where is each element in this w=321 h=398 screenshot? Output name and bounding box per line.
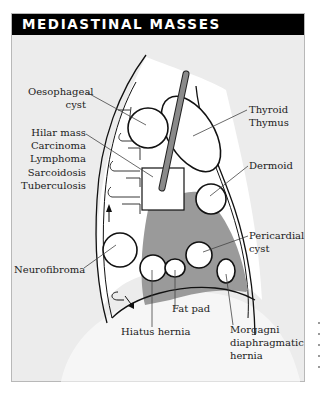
label-dermoid: Dermoid: [249, 159, 293, 172]
pericardial-cyst-mass: [186, 242, 212, 268]
label-oesophageal-cyst: Oesophageal cyst: [28, 85, 86, 111]
label-hilar-mass: Hilar mass Carcinoma Lymphoma Sarcoidosi…: [20, 126, 86, 192]
dermoid-mass: [196, 184, 226, 214]
label-hiatus-hernia: Hiatus hernia: [121, 325, 190, 338]
morgagni-hernia-mass: [217, 259, 235, 283]
oesophageal-cyst-mass: [128, 108, 168, 148]
label-fat-pad: Fat pad: [172, 302, 210, 315]
hiatus-hernia-mass: [140, 255, 166, 281]
label-morgagni-hernia: Morgagni diaphragmatic hernia: [230, 323, 304, 363]
neurofibroma-mass: [103, 233, 137, 267]
page-edge-marks: [318, 322, 320, 382]
label-thyroid-thymus: Thyroid Thymus: [249, 103, 289, 129]
label-pericardial-cyst: Pericardial cyst: [249, 229, 304, 255]
label-neurofibroma: Neurofibroma: [14, 263, 84, 276]
